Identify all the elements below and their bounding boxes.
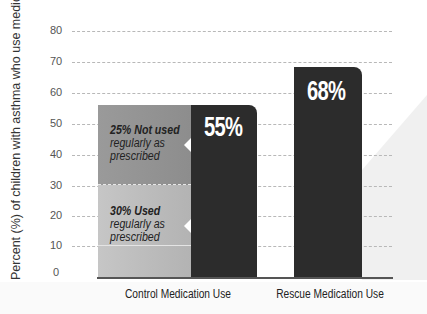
gridline <box>72 31 392 32</box>
not-used-label-line1: regularly as <box>110 136 165 150</box>
segment-highlight-line <box>98 245 191 246</box>
used-label-line1: regularly as <box>110 217 165 231</box>
segment-not-used: 25% Not used regularly as prescribed <box>98 105 191 185</box>
used-label-bold: 30% Used <box>110 204 160 218</box>
rescue-value-label: 68% <box>307 75 345 107</box>
tick-40: 40 <box>50 148 72 160</box>
tick-70: 70 <box>50 55 72 67</box>
bar-control-total: 55% <box>191 105 257 277</box>
tick-60: 60 <box>50 86 72 98</box>
tick-50: 50 <box>50 117 72 129</box>
not-used-label-line2: prescribed <box>110 149 160 163</box>
tick-30: 30 <box>50 179 72 191</box>
y-axis-label: Percent (%) of children with asthma who … <box>9 0 29 280</box>
tick-80: 80 <box>50 24 72 36</box>
x-label-rescue: Rescue Medication Use <box>275 287 386 301</box>
gridline <box>72 62 392 63</box>
tick-10: 10 <box>50 239 72 251</box>
tick-20: 20 <box>50 209 72 221</box>
bar-rescue: 68% <box>294 67 362 277</box>
segment-used: 30% Used regularly as prescribed <box>98 185 191 277</box>
pointer-arrow-icon <box>184 219 191 233</box>
tick-0: 0 <box>53 266 75 278</box>
not-used-label-bold: 25% Not used <box>110 123 180 137</box>
x-label-control: Control Medication Use <box>119 287 238 301</box>
x-axis-line <box>97 277 393 279</box>
pointer-arrow-icon <box>184 138 191 152</box>
control-value-label: 55% <box>204 111 242 143</box>
used-label-line2: prescribed <box>110 230 160 244</box>
